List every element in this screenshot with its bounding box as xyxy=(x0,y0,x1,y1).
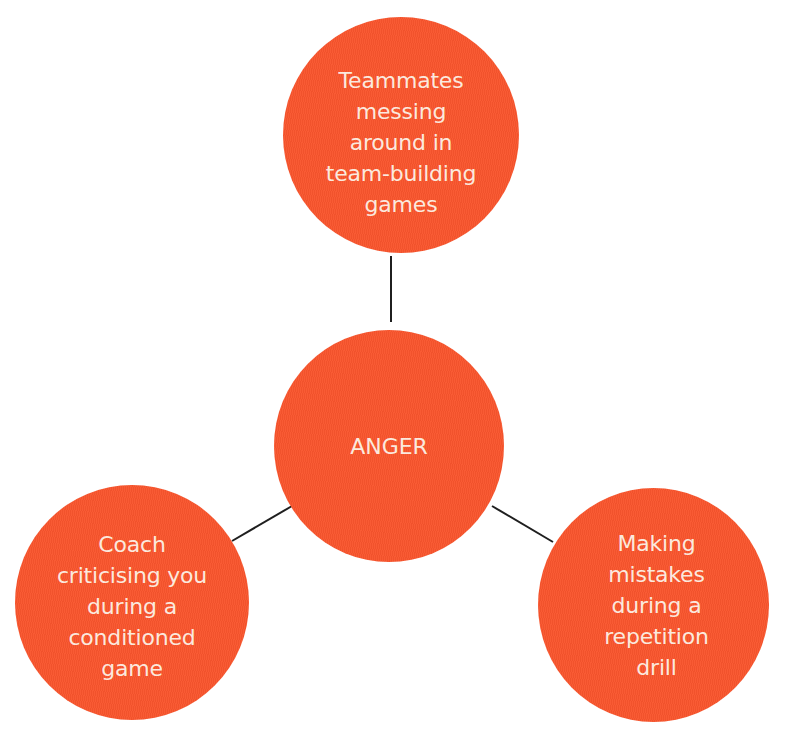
node-teammates-messing-around: Teammates messing around in team-buildin… xyxy=(283,17,519,253)
connector-bottom-left xyxy=(232,506,292,541)
node-label: Teammates messing around in team-buildin… xyxy=(326,65,477,220)
center-label: ANGER xyxy=(350,431,428,462)
node-center-anger: ANGER xyxy=(274,330,504,562)
connector-bottom-right xyxy=(492,506,553,542)
node-coach-criticising: Coach criticising you during a condition… xyxy=(15,485,249,720)
node-label: Making mistakes during a repetition dril… xyxy=(604,528,708,683)
node-label: Coach criticising you during a condition… xyxy=(57,529,207,684)
anger-triggers-diagram: Teammates messing around in team-buildin… xyxy=(0,0,787,741)
node-making-mistakes: Making mistakes during a repetition dril… xyxy=(538,488,769,722)
